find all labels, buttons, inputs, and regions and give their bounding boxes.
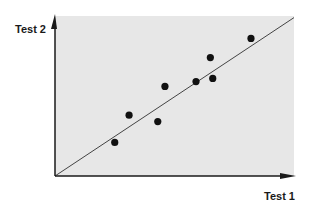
data-point [154, 118, 161, 125]
data-point [192, 78, 199, 85]
scatter-chart: Test 2 Test 1 [0, 0, 309, 205]
data-point [207, 54, 214, 61]
y-axis-label: Test 2 [15, 23, 46, 35]
x-axis-label: Test 1 [264, 190, 295, 202]
data-point [161, 83, 168, 90]
data-point [247, 35, 254, 42]
data-point [209, 75, 216, 82]
data-point [125, 112, 132, 119]
data-point [111, 139, 118, 146]
